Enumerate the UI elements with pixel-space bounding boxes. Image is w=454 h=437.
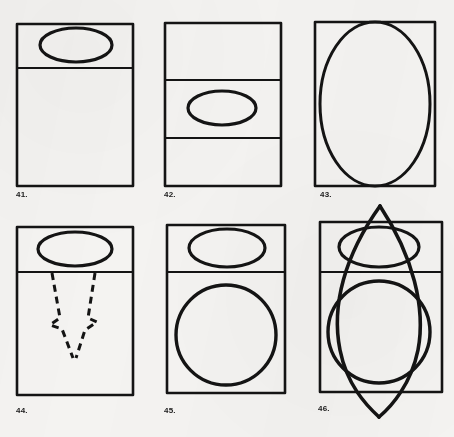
figure-44 <box>17 227 133 395</box>
figure-label-42: 42. <box>164 190 176 199</box>
figure-label-41: 41. <box>16 190 28 199</box>
figure-42-ellipse-1 <box>188 91 256 125</box>
figure-label-43: 43. <box>320 190 332 199</box>
figure-45-circle-1 <box>176 285 276 385</box>
figure-44-dashed-arrow-right-stroke <box>76 273 97 358</box>
figure-43 <box>315 22 435 186</box>
figure-41-frame <box>17 24 133 186</box>
scanned-figure-sheet: 41. 42. 43. 44. 45. 46. <box>0 0 454 437</box>
figure-45 <box>167 225 285 393</box>
figure-label-45: 45. <box>164 406 176 415</box>
figure-41 <box>17 24 133 186</box>
figure-44-dashed-arrow-left-stroke <box>50 273 73 358</box>
figures-canvas <box>0 0 454 437</box>
figure-44-frame <box>17 227 133 395</box>
figure-42 <box>165 23 281 186</box>
figure-46 <box>320 206 442 417</box>
figure-43-frame <box>315 22 435 186</box>
figure-45-ellipse-1 <box>189 229 265 267</box>
figure-41-ellipse-1 <box>40 28 112 62</box>
figure-label-46: 46. <box>318 404 330 413</box>
figure-44-ellipse-1 <box>38 232 112 266</box>
figure-42-frame <box>165 23 281 186</box>
figure-43-ellipse-1 <box>320 22 430 186</box>
figure-label-44: 44. <box>16 406 28 415</box>
